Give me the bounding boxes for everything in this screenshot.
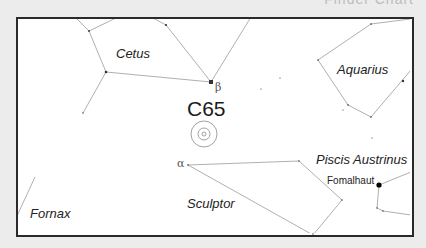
beta-ceti-star (209, 80, 213, 84)
constellation-label-aquarius: Aquarius (337, 63, 388, 76)
piscis-austrinus-lines (377, 172, 411, 215)
finder-chart-page: Finder Chart (0, 0, 426, 248)
star-label-fomalhaut: Fomalhaut (327, 176, 374, 186)
target-label-c65: C65 (187, 98, 226, 119)
c65-target-icon (191, 121, 217, 147)
constellation-label-sculptor: Sculptor (187, 197, 235, 210)
constellation-label-cetus: Cetus (116, 47, 150, 60)
star-label-beta: β (215, 82, 221, 93)
constellation-label-fornax: Fornax (30, 207, 70, 220)
constellation-label-piscis-austrinus: Piscis Austrinus (316, 153, 407, 166)
star-label-alpha: α (177, 158, 184, 169)
fomalhaut-star (376, 182, 381, 187)
